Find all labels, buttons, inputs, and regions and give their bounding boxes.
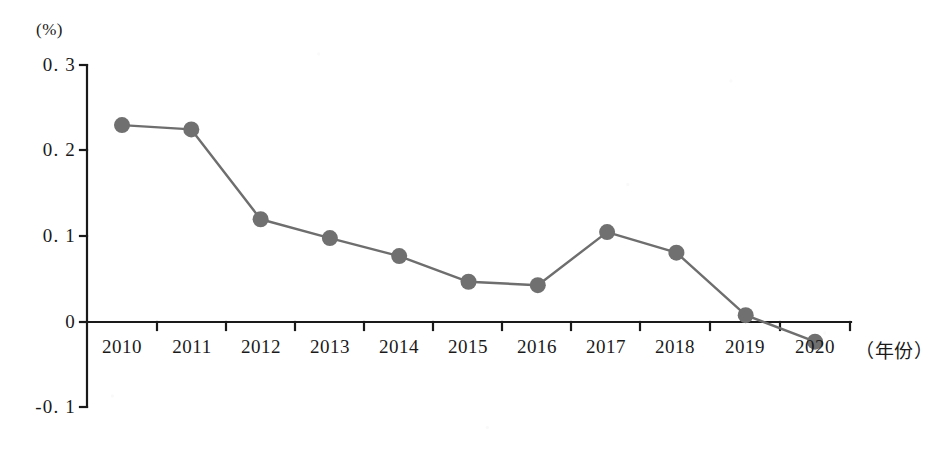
data-point-2012: [253, 211, 269, 227]
x-tick-label-2019: 2019: [725, 336, 765, 358]
x-tick-label-2012: 2012: [241, 336, 281, 358]
data-point-2011: [183, 121, 199, 137]
y-tick-label-0.2: 0. 2: [43, 139, 76, 161]
y-tick-label-0.1: 0. 1: [43, 225, 76, 247]
x-tick-label-2018: 2018: [655, 336, 695, 358]
data-point-2018: [668, 245, 684, 261]
data-point-2010: [114, 117, 130, 133]
x-tick-label-2020: 2020: [795, 336, 835, 358]
data-point-2013: [322, 230, 338, 246]
data-point-2017: [599, 224, 615, 240]
x-tick-label-2013: 2013: [310, 336, 350, 358]
x-tick-label-2015: 2015: [448, 336, 488, 358]
x-tick-label-2011: 2011: [172, 336, 211, 358]
line-chart: (%) 0. 3 0. 2 0. 1: [0, 0, 937, 450]
y-tick-label-0: 0: [65, 311, 76, 333]
y-axis: [80, 65, 87, 407]
data-point-2014: [391, 248, 407, 264]
x-axis: [87, 322, 851, 330]
x-tick-label-2016: 2016: [517, 336, 557, 358]
data-point-2015: [461, 274, 477, 290]
data-series-line: [122, 125, 815, 342]
y-tick-label-0.3: 0. 3: [43, 54, 76, 76]
chart-plot-area: [0, 0, 937, 450]
x-tick-label-2010: 2010: [102, 336, 142, 358]
data-point-2019: [738, 307, 754, 323]
data-point-2016: [530, 277, 546, 293]
data-point-markers: [114, 117, 823, 350]
x-axis-title: （年份）: [855, 336, 933, 363]
x-tick-label-2017: 2017: [586, 336, 626, 358]
x-tick-label-2014: 2014: [379, 336, 419, 358]
y-tick-label--0.1: -0. 1: [35, 396, 76, 418]
